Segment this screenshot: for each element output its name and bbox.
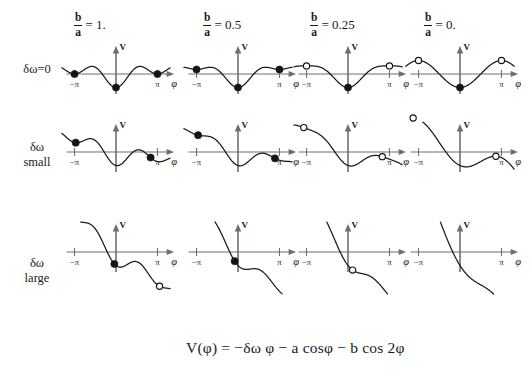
fraction-numerator: b — [74, 12, 82, 24]
x-tick-label: π — [277, 79, 282, 89]
plot-cell-r1c3: −ππφV — [406, 118, 531, 222]
unstable-point-marker — [415, 57, 421, 63]
potential-plot: −ππφV — [62, 118, 196, 222]
x-tick-label: −π — [302, 257, 312, 267]
x-tick-label: π — [499, 79, 504, 89]
potential-equation: V(φ) = −δω φ − a cosφ − b cos 2φ — [186, 339, 405, 357]
unstable-point-marker — [379, 154, 385, 160]
x-axis — [189, 249, 297, 255]
stable-point-marker — [344, 84, 351, 91]
potential-plot: −ππφV — [406, 218, 531, 322]
column-header-2: b a = 0.25 — [310, 12, 355, 38]
x-axis — [189, 149, 297, 155]
y-axis-label: V — [242, 42, 249, 52]
x-axis-label: φ — [171, 156, 177, 167]
x-axis — [299, 149, 407, 155]
stable-point-marker — [154, 70, 161, 77]
x-tick-label: π — [387, 79, 392, 89]
column-header-value: = 0. — [435, 17, 455, 33]
y-axis-label: V — [120, 120, 127, 130]
stable-point-marker — [456, 84, 463, 91]
x-axis — [411, 149, 519, 155]
x-tick-label: −π — [414, 157, 424, 167]
stable-point-marker — [71, 70, 78, 77]
y-axis-label: V — [352, 220, 359, 230]
x-tick-label: π — [277, 257, 282, 267]
potential-plot: −ππφV — [406, 118, 531, 222]
row-label-line1: δω=0 — [23, 62, 50, 76]
y-axis-label: V — [120, 42, 127, 52]
stable-point-marker — [193, 66, 200, 73]
x-tick-label: −π — [302, 157, 312, 167]
x-tick-label: −π — [192, 157, 202, 167]
x-axis — [67, 149, 175, 155]
x-axis — [411, 249, 519, 255]
x-axis-label: φ — [515, 156, 521, 167]
x-tick-label: π — [499, 257, 504, 267]
x-tick-label: −π — [70, 257, 80, 267]
stable-point-marker — [234, 84, 241, 91]
stable-point-marker — [231, 258, 238, 265]
x-axis — [411, 71, 519, 77]
unstable-point-marker — [303, 63, 309, 69]
x-axis — [67, 249, 175, 255]
x-tick-label: −π — [70, 157, 80, 167]
row-label-line1: δω — [30, 140, 44, 154]
fraction-b-over-a: b a — [424, 12, 432, 38]
x-tick-label: −π — [192, 79, 202, 89]
x-tick-label: π — [387, 257, 392, 267]
stable-point-marker — [195, 132, 202, 139]
column-header-3: b a = 0. — [424, 12, 456, 38]
unstable-point-marker — [350, 267, 356, 273]
x-axis-label: φ — [515, 256, 521, 267]
row-label-domega-large: δω large — [8, 256, 66, 286]
column-header-value: = 1. — [85, 17, 105, 33]
y-axis-label: V — [242, 120, 249, 130]
y-axis-label: V — [352, 42, 359, 52]
x-tick-label: π — [155, 257, 160, 267]
y-axis-label: V — [464, 220, 471, 230]
x-axis — [299, 249, 407, 255]
potential-curve — [81, 222, 170, 289]
potential-curve — [215, 222, 282, 294]
fraction-numerator: b — [310, 12, 318, 24]
figure-canvas: b a = 1. b a = 0.5 b a = 0.25 b a = 0. δ… — [0, 0, 531, 380]
x-tick-label: −π — [414, 79, 424, 89]
stable-point-marker — [276, 66, 283, 73]
x-axis-label: φ — [515, 78, 521, 89]
fraction-numerator: b — [203, 12, 211, 24]
unstable-point-marker — [498, 57, 504, 63]
plot-cell-r2c3: −ππφV — [406, 218, 531, 322]
stable-point-marker — [147, 154, 154, 161]
fraction-denominator: a — [310, 27, 318, 39]
x-tick-label: −π — [302, 79, 312, 89]
fraction-denominator: a — [424, 27, 432, 39]
y-axis-label: V — [352, 120, 359, 130]
stable-point-marker — [112, 84, 119, 91]
fraction-b-over-a: b a — [310, 12, 318, 38]
row-label-domega-small: δω small — [8, 140, 66, 170]
x-axis — [299, 71, 407, 77]
y-axis-label: V — [242, 220, 249, 230]
x-tick-label: −π — [70, 79, 80, 89]
x-axis-label: φ — [171, 78, 177, 89]
fraction-numerator: b — [424, 12, 432, 24]
potential-curve — [440, 222, 493, 294]
fraction-denominator: a — [203, 27, 211, 39]
y-axis-label: V — [464, 120, 471, 130]
unstable-point-marker — [386, 63, 392, 69]
y-axis-label: V — [120, 220, 127, 230]
fraction-b-over-a: b a — [203, 12, 211, 38]
column-header-value: = 0.5 — [214, 17, 241, 33]
potential-curve — [327, 222, 388, 294]
unstable-point-marker — [493, 153, 499, 159]
unstable-point-marker — [301, 125, 307, 131]
potential-plot: −ππφV — [62, 218, 196, 322]
y-axis-label: V — [464, 42, 471, 52]
stable-point-marker — [72, 139, 79, 146]
plot-cell-r1c0: −ππφV — [62, 118, 196, 222]
row-label-line2: small — [8, 155, 66, 170]
row-label-line2: large — [8, 271, 66, 286]
x-tick-label: π — [155, 79, 160, 89]
stable-point-marker — [271, 155, 278, 162]
